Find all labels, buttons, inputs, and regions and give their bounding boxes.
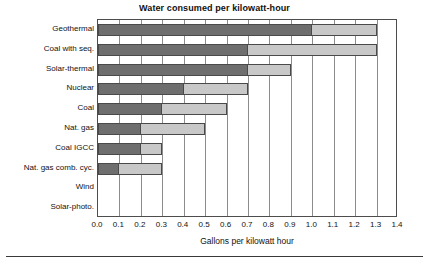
x-axis-tick: 1.4 [391, 220, 402, 229]
y-axis-label: Solar-thermal [0, 65, 94, 73]
x-axis-tick: 1.2 [349, 220, 360, 229]
x-axis-tick: 0.6 [220, 220, 231, 229]
bar-segment [98, 103, 162, 115]
bar-group [98, 143, 396, 155]
y-axis-label: Solar-photo. [0, 203, 94, 211]
y-axis-label: Coal with seq. [0, 45, 94, 53]
y-axis-label: Wind [0, 183, 94, 191]
y-axis-category-labels: GeothermalCoal with seq.Solar-thermalNuc… [0, 19, 94, 217]
x-axis-tick: 1.0 [306, 220, 317, 229]
stacked-bar [98, 64, 291, 76]
bar-group [98, 103, 396, 115]
bar-group [98, 44, 396, 56]
bar-segment [248, 64, 291, 76]
x-axis-tick: 0.9 [284, 220, 295, 229]
stacked-bar [98, 123, 205, 135]
bar-group [98, 163, 396, 175]
bar-group [98, 83, 396, 95]
bar-group [98, 64, 396, 76]
bar-segment [98, 83, 184, 95]
y-axis-label: Nuclear [0, 84, 94, 92]
x-axis-tick: 0.5 [199, 220, 210, 229]
x-axis-tick: 0.2 [134, 220, 145, 229]
bar-segment [141, 123, 205, 135]
plot-area [97, 19, 397, 217]
bar-segment [98, 163, 119, 175]
x-axis-tick: 0.3 [156, 220, 167, 229]
y-axis-label: Nat. gas comb. cyc. [0, 164, 94, 172]
x-axis-tick: 1.3 [370, 220, 381, 229]
bar-segment [98, 143, 141, 155]
bar-segment [98, 64, 248, 76]
bar-segment [162, 103, 226, 115]
stacked-bar [98, 83, 248, 95]
bar-segment [119, 163, 162, 175]
x-axis-tick: 0.8 [263, 220, 274, 229]
chart-title: Water consumed per kilowatt-hour [0, 3, 429, 13]
bar-segment [141, 143, 162, 155]
stacked-bar [98, 143, 162, 155]
bar-segment [184, 83, 248, 95]
x-axis-tick: 1.1 [327, 220, 338, 229]
footer-divider [6, 256, 423, 257]
x-axis-tick: 0.1 [113, 220, 124, 229]
bar-segment [312, 24, 376, 36]
chart-figure: Water consumed per kilowatt-hour Geother… [0, 0, 429, 265]
x-axis-tick: 0.7 [241, 220, 252, 229]
stacked-bar [98, 163, 162, 175]
x-axis-tick-labels: 0.00.10.20.30.40.50.60.70.80.91.01.11.21… [97, 220, 397, 232]
y-axis-label: Geothermal [0, 25, 94, 33]
bar-group [98, 24, 396, 36]
x-axis-tick: 0.0 [91, 220, 102, 229]
stacked-bar [98, 103, 227, 115]
bar-segment [98, 24, 312, 36]
x-axis-title: Gallons per kilowatt hour [97, 236, 397, 246]
bar-group [98, 123, 396, 135]
stacked-bar [98, 24, 377, 36]
x-axis-tick: 0.4 [177, 220, 188, 229]
y-axis-label: Coal IGCC [0, 144, 94, 152]
y-axis-label: Coal [0, 104, 94, 112]
bar-segment [98, 44, 248, 56]
y-axis-label: Nat. gas [0, 124, 94, 132]
bar-segment [98, 123, 141, 135]
stacked-bar [98, 44, 377, 56]
bar-segment [248, 44, 377, 56]
